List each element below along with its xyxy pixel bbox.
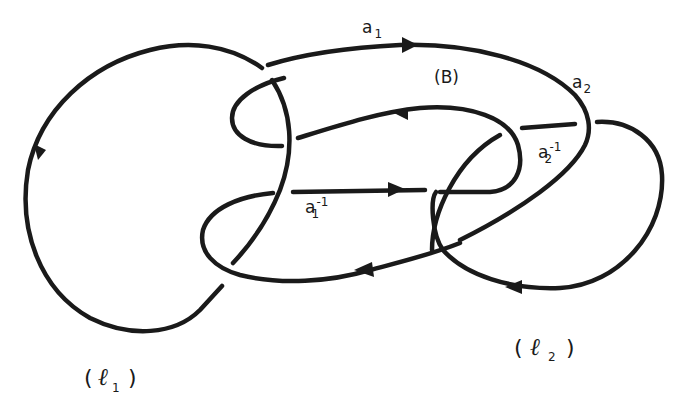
label-a2-inverse: a-12 bbox=[538, 140, 561, 166]
svg-text:): ) bbox=[566, 335, 575, 360]
arrow-right-icon bbox=[402, 37, 418, 53]
label-component-l2: ( ℓ 2 ) bbox=[514, 333, 575, 364]
arrow-right-icon bbox=[388, 182, 405, 197]
strand-upper-hook bbox=[232, 37, 589, 240]
svg-text:(: ( bbox=[514, 335, 523, 360]
label-region-b: (B) bbox=[434, 67, 459, 87]
svg-text:2: 2 bbox=[548, 350, 556, 364]
strand-middle bbox=[202, 182, 460, 281]
svg-text:ℓ: ℓ bbox=[98, 363, 108, 391]
component-l1-loop bbox=[26, 45, 262, 331]
label-component-l1: ( ℓ 1 ) bbox=[84, 363, 137, 395]
label-a1-inverse: a-11 bbox=[305, 195, 328, 221]
arrow-down-icon bbox=[34, 144, 46, 160]
link-diagram: a1 (B) a2 a-12 a-11 ( ℓ 1 ) ( ℓ 2 ) bbox=[0, 0, 677, 404]
svg-text:): ) bbox=[128, 365, 137, 390]
svg-text:(: ( bbox=[84, 365, 93, 390]
strand-inner-upper bbox=[298, 107, 520, 192]
svg-text:ℓ: ℓ bbox=[530, 333, 540, 361]
label-a1: a1 bbox=[362, 17, 382, 41]
strand-vertical-left bbox=[233, 80, 289, 263]
svg-text:1: 1 bbox=[112, 381, 120, 395]
